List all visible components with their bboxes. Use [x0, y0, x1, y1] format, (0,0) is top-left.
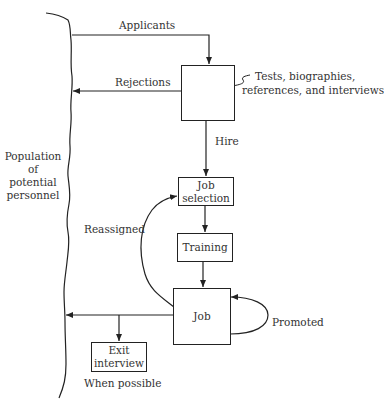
population-label-line3: potential	[4, 176, 62, 189]
exit-interview-line1: Exit	[108, 344, 129, 357]
job-selection-line1: Job	[197, 179, 214, 192]
exit-interview-box: Exit interview	[91, 342, 147, 372]
population-label-line4: personnel	[4, 189, 62, 202]
population-label-line1: Population	[4, 150, 62, 163]
reassigned-arrow	[141, 196, 177, 307]
exit-interview-line2: interview	[94, 357, 144, 370]
applicants-label: Applicants	[119, 19, 175, 32]
population-boundary	[46, 13, 72, 398]
when-possible-label: When possible	[84, 377, 161, 390]
job-selection-line2: selection	[182, 192, 230, 205]
training-box: Training	[177, 233, 233, 262]
screening-note-line1: Tests, biographies,	[255, 70, 355, 83]
promoted-label: Promoted	[272, 316, 324, 329]
hire-label: Hire	[215, 135, 239, 148]
rejections-label: Rejections	[115, 76, 171, 89]
job-box: Job	[173, 288, 231, 345]
job-selection-box: Job selection	[178, 177, 234, 206]
population-label-line2: of	[4, 163, 62, 176]
screening-note-line2: references, and interviews	[242, 84, 384, 97]
reassigned-label: Reassigned	[84, 223, 145, 236]
screening-box	[181, 65, 235, 121]
promoted-arrow	[230, 297, 268, 334]
applicants-line	[72, 35, 209, 64]
population-label: Population of potential personnel	[4, 150, 62, 202]
